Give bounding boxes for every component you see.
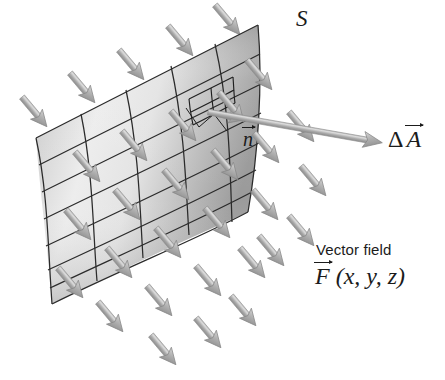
field-arrow (141, 281, 178, 321)
field-arrow (283, 211, 320, 251)
label-area-element-delta-A: ΔA (388, 126, 421, 153)
label-normal-letter: n (243, 128, 253, 150)
flux-diagram: S n ΔA Vector field F(x, y, z) (0, 0, 445, 380)
field-arrow (64, 68, 101, 108)
vector-accent-arrow-A (405, 125, 423, 126)
field-arrow (295, 161, 332, 201)
field-arrow (16, 92, 53, 132)
diagram-canvas (0, 0, 445, 380)
delta-symbol: Δ (388, 126, 403, 152)
field-arrow (190, 313, 227, 353)
field-arguments: (x, y, z) (336, 263, 405, 289)
field-arrow (234, 243, 271, 283)
vector-accent-arrow-n (242, 127, 255, 128)
label-area-letter: A (406, 126, 421, 152)
field-arrow (162, 21, 199, 61)
label-field-symbol-F: F(x, y, z) (315, 263, 405, 290)
field-arrow (92, 297, 129, 337)
field-arrow (225, 291, 262, 331)
label-normal-vector-n: n (243, 128, 253, 151)
vector-accent-arrow-F (314, 262, 332, 263)
field-arrow (247, 185, 284, 225)
field-letter: F (315, 263, 330, 289)
field-arrow (113, 45, 150, 85)
label-surface-S: S (296, 6, 308, 32)
field-arrow (145, 330, 182, 370)
field-arrow (190, 261, 227, 301)
label-vector-field-caption: Vector field (316, 241, 391, 258)
